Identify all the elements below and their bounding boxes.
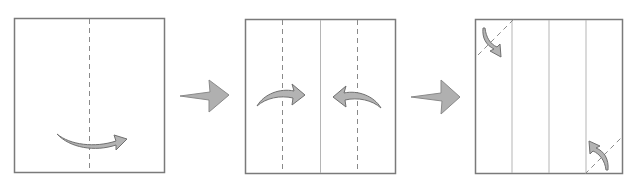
step-2 xyxy=(246,20,396,174)
next-step-arrow-icon xyxy=(180,80,229,112)
step-1 xyxy=(15,19,165,173)
step-3 xyxy=(476,19,623,174)
origami-diagram xyxy=(0,0,639,194)
next-step-arrow-icon xyxy=(411,80,460,114)
